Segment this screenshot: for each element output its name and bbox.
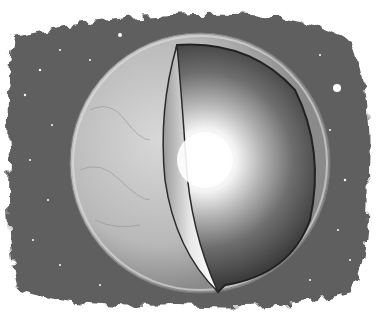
core-glow [177,132,233,188]
planet-cutaway-illustration [0,0,384,320]
